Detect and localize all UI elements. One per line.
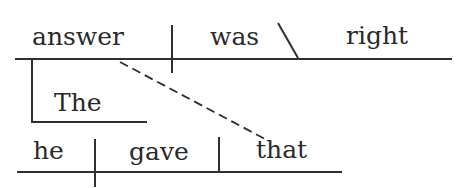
word-relative-object: that	[256, 135, 307, 164]
word-relative-subject: he	[33, 136, 64, 165]
word-relative-verb: gave	[129, 137, 189, 166]
word-predicate-adjective: right	[346, 21, 408, 50]
relative-connector-dashed	[120, 62, 265, 139]
word-article: The	[54, 88, 102, 117]
predicate-adjective-slash	[278, 23, 298, 58]
word-subject: answer	[32, 22, 124, 51]
word-verb: was	[210, 22, 259, 51]
sentence-diagram: answer was right The he gave that	[0, 0, 462, 188]
